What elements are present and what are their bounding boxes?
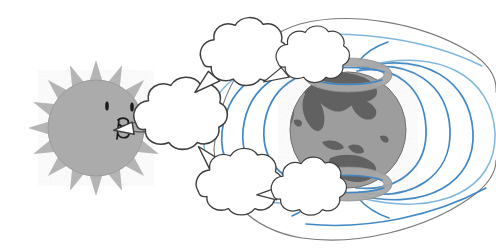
solar-wind-puff-lower-left [196, 147, 282, 215]
space-weather-illustration [0, 0, 496, 251]
sun-right-eye [130, 102, 134, 111]
illustration-canvas: Solar wind from the Sun striking Earth's… [0, 0, 496, 251]
sun-left-eye [105, 101, 109, 110]
